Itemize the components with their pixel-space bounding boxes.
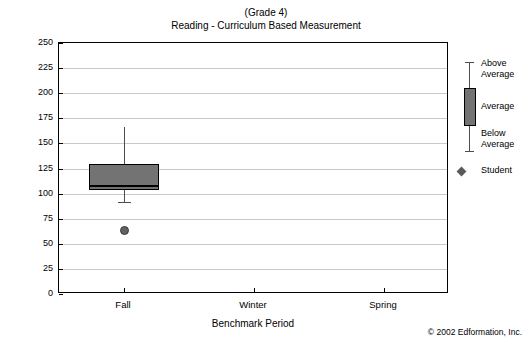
- median-line: [89, 185, 159, 187]
- y-tick-mark: [59, 169, 63, 170]
- gridline: [59, 143, 447, 144]
- legend-label-above-average: Above Average: [481, 58, 514, 79]
- y-tick-mark: [59, 68, 63, 69]
- y-tick-mark: [59, 143, 63, 144]
- y-tick-mark: [59, 269, 63, 270]
- plot-area: [58, 42, 448, 293]
- chart-subtitle: Reading - Curriculum Based Measurement: [0, 19, 532, 32]
- y-tick-label: 150: [25, 137, 53, 147]
- y-tick-mark: [59, 43, 63, 44]
- gridline: [59, 194, 447, 195]
- copyright-text: © 2002 Edformation, Inc.: [428, 327, 522, 337]
- gridline: [59, 219, 447, 220]
- x-axis-title: Benchmark Period: [58, 318, 448, 329]
- y-tick-label: 75: [25, 213, 53, 223]
- x-tick-mark: [254, 288, 255, 292]
- legend-whisker-lower-cap-icon: [465, 151, 474, 152]
- y-tick-label: 200: [25, 87, 53, 97]
- x-tick-mark: [124, 288, 125, 292]
- gridline: [59, 269, 447, 270]
- gridline: [59, 118, 447, 119]
- legend-whisker-lower-icon: [469, 126, 470, 152]
- chart-title: (Grade 4): [0, 6, 532, 19]
- chart-legend: Above Average Average Below Average Stud…: [455, 62, 531, 192]
- y-tick-label: 225: [25, 62, 53, 72]
- x-tick-label: Spring: [343, 299, 423, 310]
- y-tick-mark: [59, 93, 63, 94]
- y-tick-label: 250: [25, 37, 53, 47]
- whisker-upper: [124, 127, 125, 164]
- y-tick-mark: [59, 194, 63, 195]
- gridline: [59, 68, 447, 69]
- legend-average-box-icon: [464, 88, 476, 126]
- y-tick-label: 125: [25, 163, 53, 173]
- chart-container: (Grade 4) Reading - Curriculum Based Mea…: [0, 0, 532, 345]
- legend-whisker-upper-cap-icon: [465, 62, 474, 63]
- y-tick-mark: [59, 244, 63, 245]
- y-tick-label: 100: [25, 188, 53, 198]
- legend-whisker-upper-icon: [469, 62, 470, 88]
- x-tick-label: Winter: [213, 299, 293, 310]
- legend-label-below-average: Below Average: [481, 128, 514, 149]
- y-tick-mark: [59, 219, 63, 220]
- legend-label-average: Average: [481, 101, 514, 112]
- legend-label-student: Student: [481, 165, 512, 176]
- y-tick-label: 0: [25, 288, 53, 298]
- x-tick-mark: [384, 288, 385, 292]
- x-tick-label: Fall: [83, 299, 163, 310]
- student-data-point: [120, 226, 129, 235]
- y-tick-mark: [59, 294, 63, 295]
- y-tick-label: 25: [25, 263, 53, 273]
- y-tick-label: 50: [25, 238, 53, 248]
- chart-title-block: (Grade 4) Reading - Curriculum Based Mea…: [0, 6, 532, 32]
- y-tick-mark: [59, 118, 63, 119]
- gridline: [59, 244, 447, 245]
- legend-box-marker: [463, 62, 477, 178]
- whisker-lower-cap: [118, 202, 131, 203]
- gridline: [59, 93, 447, 94]
- y-tick-label: 175: [25, 112, 53, 122]
- y-axis-title: Words Read Correct (WRC): [0, 0, 1, 60]
- whisker-lower: [124, 190, 125, 202]
